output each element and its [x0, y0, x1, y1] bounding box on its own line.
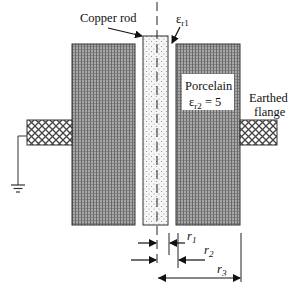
eps-r2-label: εr2 = 5	[189, 95, 221, 111]
eps-r1-arrow	[172, 27, 180, 43]
eps-r1-label: εr1	[176, 12, 189, 28]
bushing-cross-section-diagram: Copper rod εr1 Porcelain εr2 = 5 Earthed…	[0, 0, 294, 292]
earthed-flange-label-line1: Earthed	[249, 91, 289, 105]
r2-label: r2	[204, 243, 214, 259]
porcelain-left	[72, 44, 135, 225]
earthed-flange-label-line2: flange	[254, 105, 286, 119]
porcelain-label: Porcelain	[185, 79, 233, 93]
copper-rod-label: Copper rod	[80, 11, 137, 25]
r1-label: r1	[187, 229, 196, 245]
copper-rod	[143, 36, 168, 225]
ground-icon	[11, 136, 27, 192]
porcelain-right	[176, 44, 240, 225]
copper-rod-arrow	[108, 28, 142, 36]
flange-right	[240, 120, 277, 145]
r3-label: r3	[217, 262, 227, 278]
r3-arrow-left-head	[158, 274, 166, 282]
flange-left	[27, 120, 72, 145]
